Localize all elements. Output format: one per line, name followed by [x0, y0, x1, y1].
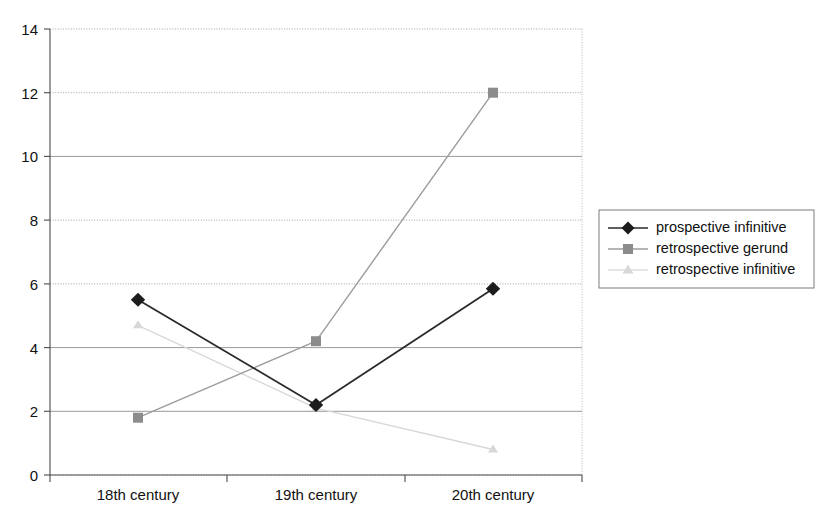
y-tick-label: 0	[30, 467, 38, 484]
y-tick-label: 6	[30, 276, 38, 293]
y-tick-label: 14	[21, 21, 38, 38]
chart-legend: prospective infinitive retrospective ger…	[599, 210, 814, 288]
data-point-marker	[311, 336, 321, 346]
y-tick-label: 2	[30, 403, 38, 420]
data-point-marker	[133, 413, 143, 423]
chart-canvas: 14 12 10 8 6 4 2 0 18th century 19th cen…	[0, 0, 836, 528]
y-tick-label: 4	[30, 340, 38, 357]
y-axis-ticks	[44, 29, 50, 475]
y-axis-labels: 14 12 10 8 6 4 2 0	[21, 21, 38, 484]
y-tick-label: 8	[30, 212, 38, 229]
legend-item-label: prospective infinitive	[656, 219, 787, 235]
data-point-marker	[488, 88, 498, 98]
x-axis-labels: 18th century 19th century 20th century	[97, 486, 535, 503]
x-axis-ticks	[50, 475, 582, 482]
y-tick-label: 12	[21, 85, 38, 102]
x-tick-label: 20th century	[452, 486, 535, 503]
x-tick-label: 19th century	[275, 486, 358, 503]
y-tick-label: 10	[21, 148, 38, 165]
x-tick-label: 18th century	[97, 486, 180, 503]
line-chart: 14 12 10 8 6 4 2 0 18th century 19th cen…	[0, 0, 836, 528]
legend-item-label: retrospective gerund	[656, 240, 788, 256]
legend-item-label: retrospective infinitive	[656, 261, 795, 277]
square-marker-icon	[623, 244, 633, 254]
